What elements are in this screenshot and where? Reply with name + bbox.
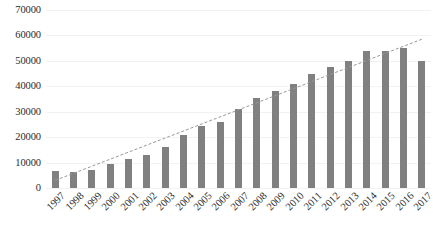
y-tick-label: 60000 bbox=[15, 30, 41, 41]
x-tick-label: 2002 bbox=[136, 190, 158, 212]
bars-layer bbox=[46, 10, 431, 188]
x-tick-label: 2015 bbox=[375, 190, 397, 212]
x-tick-label: 2008 bbox=[246, 190, 268, 212]
x-tick-label: 2006 bbox=[210, 190, 232, 212]
bar[interactable] bbox=[198, 126, 205, 188]
bar[interactable] bbox=[308, 74, 315, 188]
y-tick-label: 10000 bbox=[15, 157, 41, 168]
bar-slot bbox=[46, 10, 64, 188]
bar[interactable] bbox=[70, 172, 77, 188]
bar-slot bbox=[64, 10, 82, 188]
x-tick-label: 2011 bbox=[302, 190, 324, 212]
x-tick-label: 2012 bbox=[320, 190, 342, 212]
bar-slot bbox=[376, 10, 394, 188]
bar-slot bbox=[83, 10, 101, 188]
x-tick-label: 2016 bbox=[393, 190, 415, 212]
bar-slot bbox=[193, 10, 211, 188]
bar[interactable] bbox=[327, 67, 334, 188]
y-axis: 010000200003000040000500006000070000 bbox=[0, 0, 44, 190]
bar-slot bbox=[284, 10, 302, 188]
bar[interactable] bbox=[235, 109, 242, 188]
bar[interactable] bbox=[290, 84, 297, 188]
bar-slot bbox=[358, 10, 376, 188]
x-tick-label: 2017 bbox=[411, 190, 433, 212]
bar-slot bbox=[211, 10, 229, 188]
bar-slot bbox=[174, 10, 192, 188]
y-tick-label: 30000 bbox=[15, 106, 41, 117]
y-tick-label: 20000 bbox=[15, 132, 41, 143]
bar[interactable] bbox=[125, 159, 132, 188]
bar[interactable] bbox=[88, 170, 95, 188]
bar-slot bbox=[413, 10, 431, 188]
x-tick-label: 1998 bbox=[63, 190, 85, 212]
x-tick-label: 1999 bbox=[81, 190, 103, 212]
x-tick-label: 2005 bbox=[191, 190, 213, 212]
x-tick-label: 2014 bbox=[356, 190, 378, 212]
x-tick-label: 2003 bbox=[155, 190, 177, 212]
bar-slot bbox=[119, 10, 137, 188]
bar-slot bbox=[394, 10, 412, 188]
bar-slot bbox=[101, 10, 119, 188]
y-tick-label: 0 bbox=[36, 183, 41, 194]
x-tick-label: 2013 bbox=[338, 190, 360, 212]
bar[interactable] bbox=[162, 147, 169, 188]
bar-chart: 010000200003000040000500006000070000 199… bbox=[0, 0, 433, 225]
bar-slot bbox=[303, 10, 321, 188]
bar-slot bbox=[138, 10, 156, 188]
bar[interactable] bbox=[363, 51, 370, 188]
bar[interactable] bbox=[217, 122, 224, 188]
bar-slot bbox=[321, 10, 339, 188]
y-tick-label: 50000 bbox=[15, 56, 41, 67]
x-tick-label: 2000 bbox=[100, 190, 122, 212]
bar-slot bbox=[266, 10, 284, 188]
bar-slot bbox=[248, 10, 266, 188]
bar[interactable] bbox=[345, 61, 352, 188]
x-tick-label: 2010 bbox=[283, 190, 305, 212]
bar-slot bbox=[339, 10, 357, 188]
bar[interactable] bbox=[382, 51, 389, 188]
bar[interactable] bbox=[400, 48, 407, 188]
bar[interactable] bbox=[143, 155, 150, 188]
x-axis: 1997199819992000200120022003200420052006… bbox=[46, 188, 431, 225]
bar-slot bbox=[156, 10, 174, 188]
y-tick-label: 40000 bbox=[15, 81, 41, 92]
bar[interactable] bbox=[418, 61, 425, 188]
y-tick-label: 70000 bbox=[15, 5, 41, 16]
bar-slot bbox=[229, 10, 247, 188]
bar[interactable] bbox=[180, 135, 187, 188]
x-tick-label: 2009 bbox=[265, 190, 287, 212]
x-tick-label: 2001 bbox=[118, 190, 140, 212]
bar[interactable] bbox=[272, 91, 279, 188]
x-tick-label: 2007 bbox=[228, 190, 250, 212]
bar[interactable] bbox=[253, 98, 260, 188]
bar[interactable] bbox=[52, 171, 59, 188]
x-tick-label: 1997 bbox=[45, 190, 67, 212]
x-tick-label: 2004 bbox=[173, 190, 195, 212]
plot-area bbox=[46, 10, 431, 188]
bar[interactable] bbox=[107, 164, 114, 188]
